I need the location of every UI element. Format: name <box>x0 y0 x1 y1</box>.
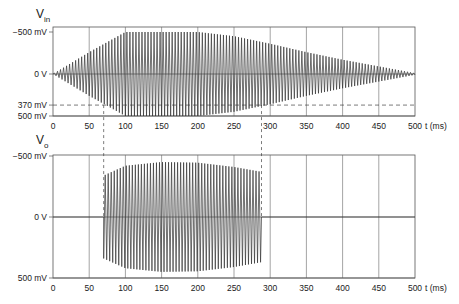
x-tick-label: 50 <box>84 121 94 131</box>
x-tick-label: 500 <box>408 121 422 131</box>
x-axis-label: t (ms) <box>425 121 447 131</box>
y-tick-label: −500 mV <box>13 27 48 37</box>
x-tick-label: 150 <box>155 283 169 293</box>
x-tick-label: 400 <box>336 283 350 293</box>
panel-title-subscript: in <box>44 15 50 24</box>
y-tick-label: 500 mV <box>18 273 48 283</box>
vin-panel: 500 mV370 mV0 V−500 mV050100150200250300… <box>13 7 447 131</box>
x-tick-label: 250 <box>227 121 241 131</box>
panel-title-subscript: o <box>44 141 49 150</box>
x-tick-label: 400 <box>336 121 350 131</box>
x-tick-label: 0 <box>51 121 56 131</box>
waveform-chart: 500 mV370 mV0 V−500 mV050100150200250300… <box>0 0 459 304</box>
x-tick-label: 350 <box>299 121 313 131</box>
vo-panel: 500 mV0 V−500 mV050100150200250300350400… <box>13 133 447 293</box>
x-tick-label: 300 <box>263 121 277 131</box>
x-tick-label: 100 <box>118 121 132 131</box>
x-tick-label: 500 <box>408 283 422 293</box>
x-tick-label: 50 <box>84 283 94 293</box>
x-tick-label: 450 <box>372 121 386 131</box>
x-tick-label: 200 <box>191 283 205 293</box>
x-tick-label: 0 <box>51 283 56 293</box>
x-tick-label: 250 <box>227 283 241 293</box>
y-tick-label: 0 V <box>34 69 47 79</box>
x-tick-label: 150 <box>155 121 169 131</box>
x-tick-label: 300 <box>263 283 277 293</box>
x-tick-label: 100 <box>118 283 132 293</box>
panel-title: V <box>36 7 44 21</box>
y-tick-label: 500 mV <box>18 111 48 121</box>
x-tick-label: 350 <box>299 283 313 293</box>
panel-title: V <box>36 133 44 147</box>
x-axis-label: t (ms) <box>425 283 447 293</box>
y-tick-label: −500 mV <box>13 151 48 161</box>
y-tick-label: 370 mV <box>18 100 48 110</box>
x-tick-label: 200 <box>191 121 205 131</box>
x-tick-label: 450 <box>372 283 386 293</box>
y-tick-label: 0 V <box>34 212 47 222</box>
